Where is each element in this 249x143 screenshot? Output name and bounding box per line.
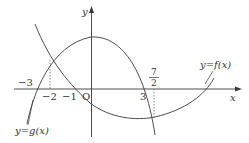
tick-label-neg2: −2	[42, 91, 57, 102]
g-label-leader	[28, 100, 33, 125]
y-axis-label: y	[81, 6, 88, 17]
curve-f	[35, 24, 214, 119]
g-curve-label: y=g(x)	[14, 125, 49, 136]
x-axis-label: x	[230, 92, 236, 103]
function-graph: y x O −3 −2 −1 3 7 2 y=f(x) y=g(x)	[0, 0, 249, 143]
fraction-denominator: 2	[151, 78, 157, 88]
origin-label: O	[82, 91, 90, 102]
fraction-numerator: 7	[151, 67, 157, 77]
x-axis-arrow-icon	[235, 87, 242, 92]
tick-label-neg3: −3	[18, 77, 33, 88]
tick-label-neg1: −1	[62, 91, 77, 102]
graph-canvas: y x O −3 −2 −1 3 7 2 y=f(x) y=g(x)	[0, 0, 249, 143]
tick-label-3: 3	[140, 91, 146, 102]
y-axis	[89, 6, 94, 137]
tick-label-seven-halves: 7 2	[149, 67, 159, 88]
f-curve-label: y=f(x)	[199, 59, 231, 70]
y-axis-arrow-icon	[89, 6, 94, 13]
curve-g	[27, 37, 155, 135]
